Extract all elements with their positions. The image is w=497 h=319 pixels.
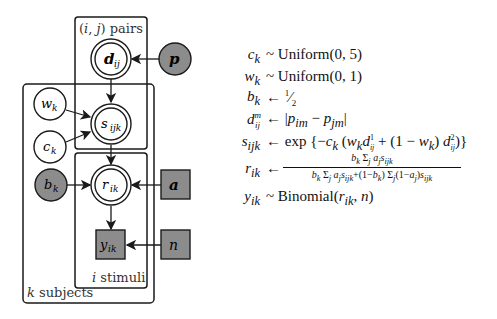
node-n: n	[161, 230, 190, 259]
node-r: r ik	[91, 165, 131, 205]
plate-label-pairs: (i, j) pairs	[79, 21, 143, 36]
node-d: d ij	[91, 39, 131, 79]
node-s: s ijk	[91, 104, 131, 144]
node-c: c k	[34, 131, 66, 163]
svg-text:k: k	[52, 103, 57, 113]
svg-text:b: b	[44, 177, 52, 192]
svg-text:ik: ik	[108, 244, 116, 254]
svg-text:c: c	[43, 139, 51, 154]
node-y: y ik	[96, 230, 125, 259]
plate-label-subjects: k subjects	[27, 285, 93, 300]
svg-text:a: a	[169, 176, 179, 194]
svg-text:w: w	[41, 96, 52, 111]
svg-text:k: k	[51, 146, 56, 156]
svg-text:s: s	[101, 116, 108, 131]
plate-label-stimuli: i stimuli	[92, 270, 145, 285]
node-a: a	[161, 170, 190, 199]
node-b: b k	[35, 169, 67, 201]
svg-text:r: r	[102, 177, 109, 192]
node-p: p	[159, 43, 191, 75]
svg-text:k: k	[53, 184, 58, 194]
svg-text:ijk: ijk	[110, 123, 121, 133]
svg-text:y: y	[99, 237, 108, 252]
svg-text:p: p	[169, 50, 180, 68]
svg-text:n: n	[169, 237, 178, 253]
svg-text:ij: ij	[114, 59, 120, 69]
svg-text:ik: ik	[110, 184, 118, 194]
node-w: w k	[34, 88, 66, 120]
